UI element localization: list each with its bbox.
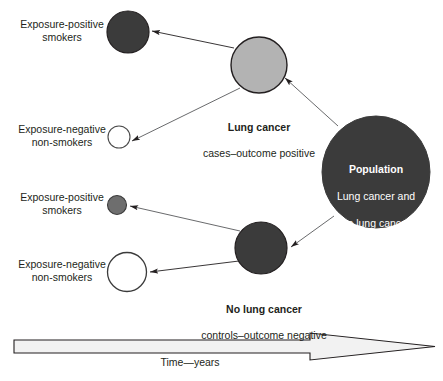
label-exposure-negative-nonsmokers-controls: Exposure-negative non-smokers: [2, 258, 122, 284]
label-lung-cancer-title: Lung cancer: [179, 121, 339, 134]
label-population: Population Lung cancer and no lung cance…: [316, 149, 436, 244]
label-population-line2: no lung cancer: [316, 217, 436, 231]
label-lung-cancer-cases: Lung cancer cases–outcome positive: [179, 108, 339, 174]
label-exposure-positive-smokers-controls: Exposure-positive smokers: [2, 191, 122, 217]
label-no-lung-cancer-title: No lung cancer: [179, 303, 349, 316]
label-lung-cancer-subtitle: cases–outcome positive: [179, 147, 339, 160]
connector-cases-to-exposure-positive: [152, 31, 234, 48]
label-exposure-negative-nonsmokers-cases: Exposure-negative non-smokers: [2, 123, 122, 149]
label-exposure-positive-smokers-cases: Exposure-positive smokers: [2, 18, 122, 44]
label-population-title: Population: [316, 163, 436, 177]
connector-controls-to-exposure-negative: [150, 261, 239, 272]
label-no-lung-cancer-subtitle: controls–outcome negative: [179, 329, 349, 342]
node-no-lung-cancer-controls: [235, 222, 287, 274]
connector-controls-to-exposure-positive: [130, 206, 240, 231]
label-no-lung-cancer-controls: No lung cancer controls–outcome negative: [179, 290, 349, 356]
label-population-line1: Lung cancer and: [316, 190, 436, 204]
diagram-canvas: Exposure-positive smokers Exposure-negat…: [0, 0, 443, 381]
label-timeline: Time—years: [130, 356, 250, 369]
node-lung-cancer-cases: [231, 37, 287, 93]
